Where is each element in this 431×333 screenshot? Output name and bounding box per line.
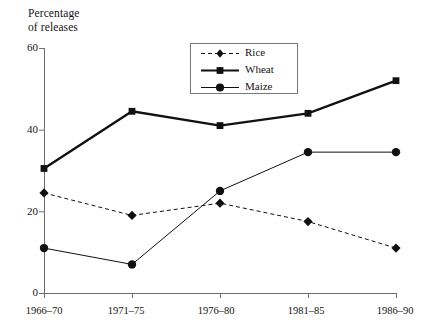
rice-line-icon (199, 45, 241, 62)
legend-entry-rice: Rice (191, 45, 299, 62)
maize-line-icon (199, 79, 241, 96)
datapoint-rice-0 (39, 188, 48, 197)
datapoint-wheat-1 (129, 108, 136, 115)
datapoint-wheat-0 (41, 165, 48, 172)
datapoint-maize-2 (216, 187, 224, 195)
legend: Rice Wheat Maize (190, 43, 298, 94)
legend-entry-wheat: Wheat (191, 62, 299, 79)
legend-entry-maize: Maize (191, 79, 299, 96)
legend-label-maize: Maize (245, 80, 272, 92)
series-line-maize (44, 152, 396, 264)
series-maize (40, 148, 400, 269)
wheat-line-icon (199, 62, 241, 79)
datapoint-wheat-3 (305, 110, 312, 117)
datapoint-rice-1 (127, 211, 136, 220)
legend-label-rice: Rice (245, 46, 265, 58)
datapoint-rice-4 (391, 243, 400, 252)
datapoint-maize-1 (128, 260, 136, 268)
datapoint-rice-3 (303, 217, 312, 226)
datapoint-maize-0 (40, 244, 48, 252)
datapoint-wheat-4 (393, 77, 400, 84)
legend-label-wheat: Wheat (245, 63, 274, 75)
series-layer (39, 77, 400, 268)
datapoint-maize-4 (392, 148, 400, 156)
datapoint-rice-2 (215, 199, 224, 208)
datapoint-wheat-2 (217, 122, 224, 129)
series-rice (39, 188, 400, 252)
chart-figure: Percentage of releases 60 40 20 0 1966–7… (0, 0, 431, 333)
datapoint-maize-3 (304, 148, 312, 156)
